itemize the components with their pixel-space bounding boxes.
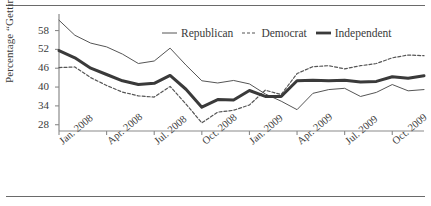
- chart-legend: Republican Democrat Independent: [162, 27, 392, 39]
- dashed-line-icon: [242, 29, 257, 37]
- legend-label-independent: Independent: [335, 27, 392, 39]
- series-line-democrat: [59, 55, 424, 123]
- legend-item-democrat[interactable]: Democrat: [242, 27, 306, 39]
- solid-thin-line-icon: [162, 29, 177, 37]
- series-line-independent: [59, 51, 424, 108]
- legend-item-independent[interactable]: Independent: [316, 27, 392, 39]
- solid-thick-line-icon: [316, 29, 331, 37]
- figure-container: Percentage “Getting Better” 283440465258…: [0, 0, 431, 206]
- legend-label-democrat: Democrat: [261, 27, 306, 39]
- legend-item-republican[interactable]: Republican: [162, 27, 233, 39]
- legend-label-republican: Republican: [181, 27, 233, 39]
